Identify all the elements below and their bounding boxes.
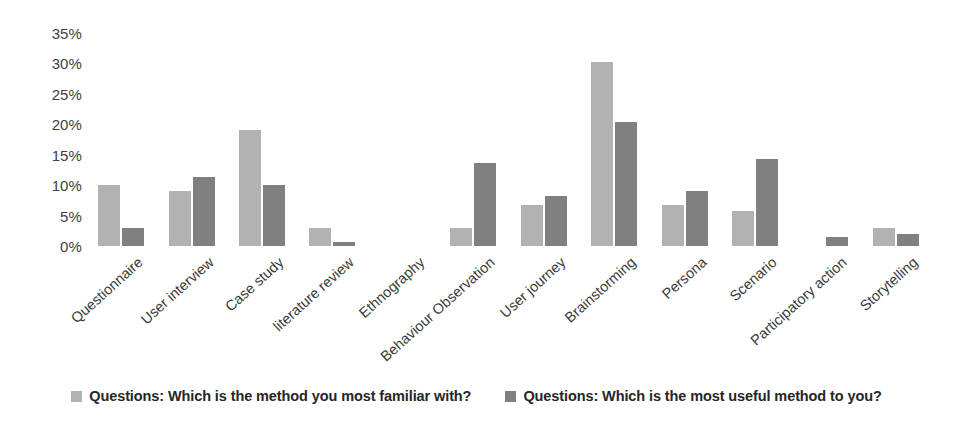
bar [826, 237, 848, 246]
bar [474, 163, 496, 246]
legend-swatch-icon [71, 391, 82, 402]
bar [309, 228, 331, 246]
bar [873, 228, 895, 246]
y-axis-tick: 25% [52, 86, 82, 101]
y-axis-tick: 35% [52, 26, 82, 41]
y-axis-tick: 10% [52, 178, 82, 193]
y-axis: 35%30%25%20%15%10%5%0% [30, 33, 82, 246]
chart-legend: Questions: Which is the method you most … [0, 388, 953, 404]
legend-item[interactable]: Questions: Which is the method you most … [71, 388, 471, 404]
bar-group [521, 33, 567, 246]
bar [756, 159, 778, 246]
bar [169, 191, 191, 246]
bar [545, 196, 567, 246]
bar-group [662, 33, 708, 246]
x-axis-label: Storytelling [856, 254, 920, 314]
x-axis-label: Brainstorming [562, 254, 639, 326]
bar-group [169, 33, 215, 246]
bar [521, 205, 543, 246]
x-axis-label: Questionnaire [68, 254, 146, 326]
y-axis-tick: 0% [60, 239, 82, 254]
bar-group [450, 33, 496, 246]
bar [98, 185, 120, 246]
y-axis-tick: 5% [60, 208, 82, 223]
bar-group [802, 33, 848, 246]
bar [591, 62, 613, 246]
bar-group [591, 33, 637, 246]
x-axis-label: User journey [497, 254, 569, 321]
bar [662, 205, 684, 246]
x-axis-label: User interview [137, 254, 216, 327]
bar [239, 130, 261, 246]
x-axis: QuestionnaireUser interviewCase studylit… [86, 246, 931, 376]
x-axis-label: Persona [658, 254, 709, 302]
bar [122, 228, 144, 246]
bar-group [873, 33, 919, 246]
bar-group [98, 33, 144, 246]
bar [732, 211, 754, 246]
bar [897, 234, 919, 246]
bar-group [380, 33, 426, 246]
legend-label: Questions: Which is the method you most … [89, 388, 471, 404]
x-axis-label: Behaviour Observation [378, 254, 498, 365]
legend-label: Questions: Which is the most useful meth… [523, 388, 881, 404]
bar [686, 191, 708, 246]
x-axis-label: Case study [222, 254, 287, 314]
bar [263, 185, 285, 246]
y-axis-tick: 30% [52, 56, 82, 71]
legend-item[interactable]: Questions: Which is the most useful meth… [505, 388, 881, 404]
y-axis-tick: 15% [52, 147, 82, 162]
plot-area [86, 33, 931, 246]
bar-chart: 35%30%25%20%15%10%5%0% QuestionnaireUser… [0, 0, 953, 421]
bar-group [309, 33, 355, 246]
x-axis-label: Ethnography [356, 254, 428, 321]
bar [450, 228, 472, 246]
bar [193, 177, 215, 246]
x-axis-label: Scenario [726, 254, 779, 304]
y-axis-tick: 20% [52, 117, 82, 132]
bar [615, 122, 637, 246]
bar-group [732, 33, 778, 246]
bar-group [239, 33, 285, 246]
legend-swatch-icon [505, 391, 516, 402]
